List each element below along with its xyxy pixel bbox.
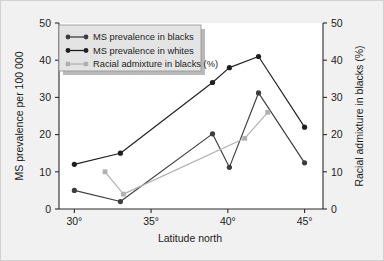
legend-label-0: MS prevalence in blacks (93, 32, 194, 42)
legend-marker-0 (66, 35, 71, 40)
y-axis-left-tick-label: 0 (45, 203, 51, 215)
data-point-marker (256, 54, 261, 59)
y-axis-right-tick-label: 30 (331, 91, 343, 103)
data-point-marker (121, 192, 126, 197)
x-axis-tick-label: 35° (143, 215, 159, 227)
data-point-marker (118, 199, 123, 204)
x-axis-tick-label: 40° (220, 215, 236, 227)
y-axis-right-title: Racial admixture in blacks (%) (353, 45, 365, 186)
y-axis-right-tick-label: 10 (331, 166, 343, 178)
y-axis-right-tick-label: 0 (331, 203, 337, 215)
data-point-marker (256, 90, 261, 95)
data-point-marker (242, 136, 247, 141)
y-axis-left-tick-label: 50 (39, 17, 51, 29)
data-point-marker (227, 65, 232, 70)
legend-marker-1 (84, 48, 89, 53)
legend-marker-0 (84, 35, 89, 40)
x-axis-title: Latitude north (158, 232, 222, 244)
y-axis-right-tick-label: 50 (331, 17, 343, 29)
chart-figure: 010203040500102030405030°35°40°45° MS pr… (0, 0, 384, 261)
y-axis-left-title: MS prevalence per 100 000 (13, 51, 25, 180)
data-point-marker (210, 131, 215, 136)
legend-marker-2 (66, 62, 70, 66)
data-point-marker (302, 125, 307, 130)
dual-axis-line-chart: 010203040500102030405030°35°40°45° MS pr… (1, 1, 384, 261)
data-point-marker (210, 80, 215, 85)
data-point-marker (265, 110, 270, 115)
data-point-marker (302, 160, 307, 165)
y-axis-left-tick-label: 20 (39, 128, 51, 140)
legend-label-2: Racial admixture in blacks (%) (93, 59, 218, 69)
y-axis-right-tick-label: 20 (331, 128, 343, 140)
legend-marker-2 (84, 62, 88, 66)
y-axis-right-tick-label: 40 (331, 54, 343, 66)
legend-label-1: MS prevalence in whites (93, 46, 194, 56)
x-axis-tick-label: 45° (297, 215, 313, 227)
data-point-marker (72, 188, 77, 193)
y-axis-left-tick-label: 40 (39, 54, 51, 66)
y-axis-left-tick-label: 30 (39, 91, 51, 103)
y-axis-left-tick-label: 10 (39, 166, 51, 178)
x-axis-tick-label: 30° (66, 215, 82, 227)
data-point-marker (103, 169, 108, 174)
data-point-marker (227, 165, 232, 170)
data-point-marker (118, 151, 123, 156)
legend-marker-1 (66, 48, 71, 53)
data-point-marker (72, 162, 77, 167)
chart-legend: MS prevalence in blacksMS prevalence in … (59, 25, 218, 75)
